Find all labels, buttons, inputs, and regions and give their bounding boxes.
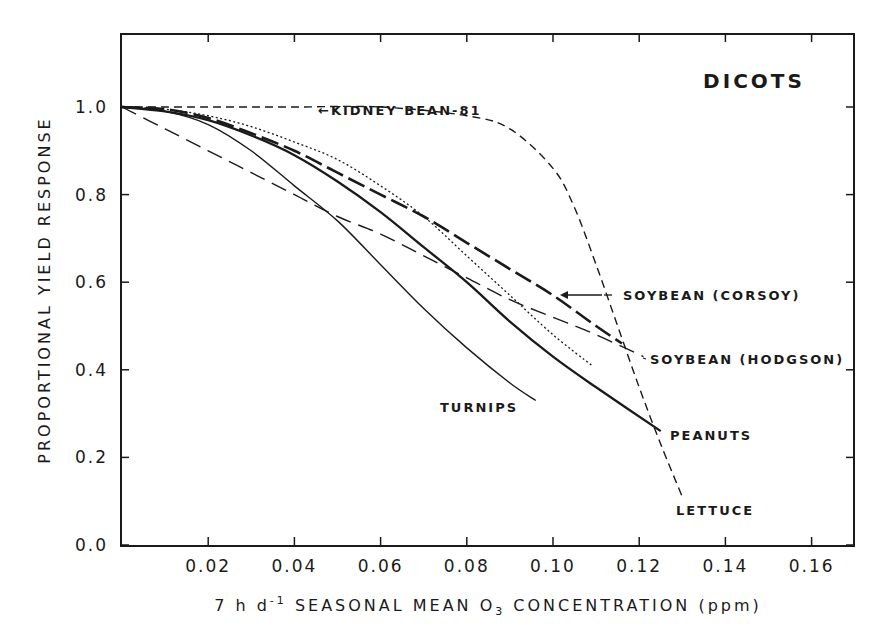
series-turnips [122, 107, 536, 400]
yield-response-chart: 0.020.040.060.080.100.120.140.16 0.00.20… [0, 0, 878, 635]
series-soybean-corsoy [122, 107, 622, 344]
label-soybean-corsoy: SOYBEAN (CORSOY) [623, 288, 800, 303]
chart-title: DICOTS [703, 69, 805, 93]
y-tick-label: 1.0 [75, 97, 108, 117]
label-lettuce: LETTUCE [676, 503, 754, 518]
x-tick-labels: 0.020.040.060.080.100.120.140.16 [185, 556, 834, 576]
y-tick-label: 0.0 [75, 535, 108, 555]
arrow-icon [560, 291, 568, 299]
x-tick-label: 0.16 [789, 556, 835, 576]
x-tick-label: 0.14 [702, 556, 748, 576]
x-tick-label: 0.04 [271, 556, 317, 576]
x-tick-label: 0.12 [616, 556, 662, 576]
series-kidney-bean-81 [122, 107, 592, 365]
y-tick-label: 0.2 [75, 447, 108, 467]
label-turnips: TURNIPS [440, 400, 518, 415]
y-axis-title: PROPORTIONAL YIELD RESPONSE [35, 116, 54, 463]
series-lettuce [122, 106, 682, 496]
y-tick-label: 0.6 [75, 272, 108, 292]
x-tick-label: 0.06 [358, 556, 404, 576]
y-tick-label: 0.8 [75, 185, 108, 205]
label-kidney-bean: ←KIDNEY BEAN-81 [318, 103, 482, 118]
label-peanuts: PEANUTS [670, 428, 752, 443]
y-tick-label: 0.4 [75, 360, 108, 380]
x-tick-label: 0.02 [185, 556, 231, 576]
x-tick-label: 0.10 [530, 556, 576, 576]
y-tick-labels: 0.00.20.40.60.81.0 [75, 97, 108, 555]
label-soybean-hodgson: SOYBEAN (HODGSON) [650, 352, 844, 367]
series-peanuts [122, 107, 661, 431]
x-axis-title: 7 h d-1 SEASONAL MEAN O3 CONCENTRATION (… [214, 594, 762, 618]
series-lines [122, 106, 682, 496]
series-soybean-hodgson [122, 107, 644, 357]
x-tick-label: 0.08 [444, 556, 490, 576]
